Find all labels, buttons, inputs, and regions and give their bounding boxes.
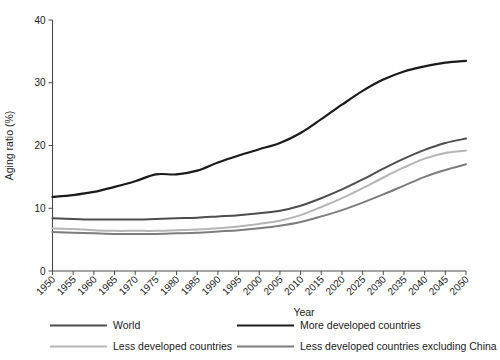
- legend-label-more-developed-countries: More developed countries: [300, 319, 421, 331]
- x-axis-title: Year: [293, 306, 315, 318]
- series-line-world: [53, 139, 467, 220]
- x-tick-label: 2020: [323, 273, 347, 297]
- x-tick-label: 1975: [137, 273, 161, 297]
- x-tick-label: 2000: [241, 273, 265, 297]
- y-tick-label: 10: [34, 203, 46, 214]
- legend-entry[interactable]: World: [50, 319, 140, 331]
- legend-label-world: World: [113, 319, 140, 331]
- x-tick-label: 2025: [344, 273, 368, 297]
- x-tick-label: 2035: [385, 273, 409, 297]
- x-tick-label: 1995: [220, 273, 244, 297]
- aging-ratio-line-chart: 0102030401950195519601965197019751980198…: [0, 0, 500, 360]
- legend-label-less-developed-countries-excluding-china: Less developed countries excluding China: [300, 340, 497, 352]
- x-tick-label: 1985: [179, 273, 203, 297]
- x-tick-label: 1955: [55, 273, 79, 297]
- x-tick-label: 2045: [427, 273, 451, 297]
- x-tick-label: 1960: [75, 273, 99, 297]
- chart-figure: 0102030401950195519601965197019751980198…: [0, 0, 500, 360]
- legend-entry[interactable]: Less developed countries excluding China: [237, 340, 497, 352]
- x-tick-label: 2030: [365, 273, 389, 297]
- legend-entry[interactable]: Less developed countries: [50, 340, 232, 352]
- axes: 0102030401950195519601965197019751980198…: [34, 15, 471, 298]
- y-tick-label: 20: [34, 140, 46, 151]
- x-tick-label: 1990: [199, 273, 223, 297]
- x-tick-label: 2010: [282, 273, 306, 297]
- series-lines: [53, 61, 467, 234]
- x-tick-label: 1980: [158, 273, 182, 297]
- x-tick-label: 2050: [447, 273, 471, 297]
- y-tick-label: 0: [40, 266, 46, 277]
- x-tick-label: 1950: [34, 273, 58, 297]
- legend-entry[interactable]: More developed countries: [237, 319, 421, 331]
- x-tick-label: 2040: [406, 273, 430, 297]
- x-tick-label: 1970: [117, 273, 141, 297]
- y-axis-title: Aging ratio (%): [3, 111, 15, 180]
- x-tick-label: 2005: [261, 273, 285, 297]
- y-tick-label: 40: [34, 15, 46, 26]
- legend-label-less-developed-countries: Less developed countries: [113, 340, 232, 352]
- series-line-more-developed-countries: [53, 61, 467, 197]
- y-tick-label: 30: [34, 77, 46, 88]
- chart-legend: WorldMore developed countriesLess develo…: [50, 319, 497, 352]
- x-tick-label: 2015: [303, 273, 327, 297]
- x-tick-label: 1965: [96, 273, 120, 297]
